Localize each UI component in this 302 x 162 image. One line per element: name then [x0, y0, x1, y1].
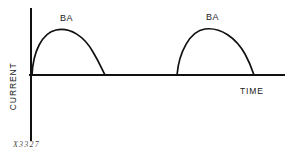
- current-hump-1: [32, 29, 105, 75]
- x-axis-label: TIME: [240, 87, 264, 96]
- current-hump-2: [177, 29, 254, 75]
- waveform-plot: [0, 0, 302, 162]
- curve-annotation-ba-2: BA: [206, 13, 219, 22]
- y-axis-label: CURRENT: [9, 54, 18, 118]
- figure-code: X3327: [13, 141, 40, 149]
- figure-canvas: CURRENT TIME BA BA X3327: [0, 0, 302, 162]
- curve-annotation-ba-1: BA: [60, 14, 73, 23]
